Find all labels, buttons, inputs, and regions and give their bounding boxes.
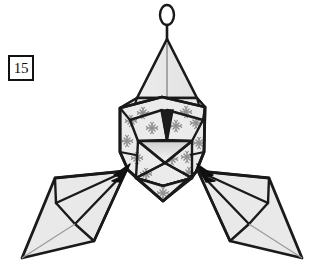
- left-flap-panel: [22, 171, 126, 258]
- top-spire: [137, 39, 197, 98]
- origami-diagram: [0, 0, 324, 266]
- left-flap: [22, 171, 126, 258]
- right-flap-panel: [198, 171, 302, 258]
- central-body: [120, 97, 205, 201]
- figure-canvas: 15: [0, 0, 324, 266]
- hanging-loop: [160, 5, 174, 40]
- right-flap: [198, 171, 302, 258]
- loop-ring-icon: [160, 5, 174, 25]
